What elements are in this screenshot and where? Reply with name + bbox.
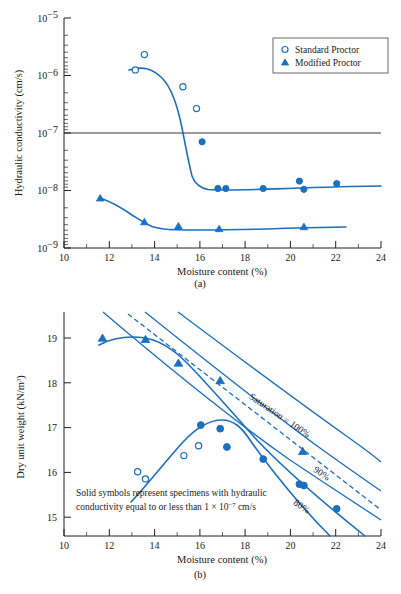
chart-panel-a: 10−5 10−6 10−7 10−8 10−9 (0, 0, 401, 290)
x-ticklabel: 10 (59, 252, 69, 263)
saturation-label-90: 90% (312, 464, 332, 482)
x-ticklabel: 18 (240, 252, 250, 263)
x-ticklabel: 12 (104, 252, 114, 263)
panel-b-svg: 15 16 17 18 19 (0, 290, 401, 594)
y-ticklabel: 19 (47, 333, 57, 344)
x-ticklabel: 24 (376, 252, 386, 263)
x-ticklabel: 18 (240, 540, 250, 551)
data-point-filled (197, 422, 204, 429)
panel-b-label: (b) (194, 569, 207, 581)
y-ticklabels-a: 10−5 10−6 10−7 10−8 10−9 (37, 9, 58, 254)
data-point-open (196, 443, 202, 449)
data-point-triangle (300, 223, 308, 230)
y-axis-title-b: Dry unit weight (kN/m3) (15, 375, 28, 479)
x-ticklabel: 20 (285, 252, 295, 263)
data-point-triangle (216, 377, 225, 384)
legend-label-modified-proctor: Modified Proctor (295, 58, 362, 68)
data-point-triangle (299, 447, 308, 454)
standard-proctor-curve-b (131, 420, 330, 536)
data-point-filled (217, 425, 224, 432)
data-point-open (180, 84, 186, 90)
modified-proctor-curve-a (100, 198, 346, 230)
data-point-open (181, 453, 187, 459)
saturation-label-100: Saturation = 100% (247, 391, 312, 439)
data-point-open (142, 476, 148, 482)
x-ticklabels-a: 10 12 14 16 18 20 22 24 (59, 252, 386, 263)
x-ticks-b (64, 529, 381, 536)
x-ticklabel: 14 (150, 540, 160, 551)
x-ticklabel: 20 (285, 540, 295, 551)
x-ticklabel: 10 (59, 540, 69, 551)
y-ticklabel-1e-7: 10−7 (37, 124, 58, 139)
standard-proctor-curve-a (129, 68, 381, 190)
data-point-open (135, 469, 141, 475)
x-ticklabel: 14 (150, 252, 160, 263)
legend-label-standard-proctor: Standard Proctor (295, 45, 360, 55)
data-point-filled (296, 178, 302, 184)
x-ticks-a (64, 241, 381, 248)
data-point-filled (199, 139, 205, 145)
data-point-filled (224, 444, 231, 451)
y-minor-ticks-a (64, 35, 68, 244)
y-ticklabel: 17 (47, 422, 57, 433)
data-point-triangle (96, 195, 104, 202)
y-ticklabel-1e-5: 10−5 (37, 9, 58, 24)
data-point-triangle (98, 334, 107, 341)
panel-a-svg: 10−5 10−6 10−7 10−8 10−9 (0, 0, 401, 290)
y-ticks-b (64, 338, 71, 517)
annotation-line-2: conductivity equal to or less than 1 × 1… (76, 501, 256, 513)
y-ticklabel-1e-8: 10−8 (37, 182, 58, 197)
data-point-filled (260, 456, 267, 463)
x-ticklabel: 12 (104, 540, 114, 551)
y-axis-title-a: Hydraulic conductivity (cm/s) (13, 69, 25, 196)
standard-proctor-open-points-b (135, 443, 202, 482)
y-ticklabel: 18 (47, 378, 57, 389)
data-point-open (132, 67, 138, 73)
x-axis-title-a: Moisture content (%) (177, 266, 267, 278)
y-ticklabel: 15 (47, 512, 57, 523)
data-point-filled (334, 181, 340, 187)
line-of-optimums-dashed (128, 314, 381, 510)
y-ticklabels-b: 15 16 17 18 19 (47, 333, 57, 523)
x-ticklabels-b: 10 12 14 16 18 20 22 24 (59, 540, 386, 551)
data-point-triangle (174, 359, 183, 366)
data-point-triangle (175, 223, 183, 230)
x-ticklabel: 22 (331, 252, 341, 263)
x-ticklabel: 24 (376, 540, 386, 551)
x-ticklabel: 16 (195, 540, 205, 551)
y-ticklabel: 16 (47, 467, 57, 478)
figure-container: 10−5 10−6 10−7 10−8 10−9 (0, 0, 401, 594)
y-ticklabel-1e-6: 10−6 (37, 67, 58, 82)
data-point-open (193, 106, 199, 112)
standard-proctor-solid-points-a (199, 139, 340, 193)
chart-panel-b: 15 16 17 18 19 (0, 290, 401, 594)
data-point-filled (223, 185, 229, 191)
data-point-filled (301, 186, 307, 192)
x-ticklabel: 22 (331, 540, 341, 551)
panel-a-label: (a) (194, 278, 206, 290)
x-axis-title-b: Moisture content (%) (177, 554, 267, 566)
y-ticklabel-1e-9: 10−9 (37, 239, 58, 254)
data-point-filled (260, 185, 266, 191)
legend-marker-open-circle (282, 47, 288, 53)
data-point-filled (215, 185, 221, 191)
annotation-line-1: Solid symbols represent specimens with h… (76, 488, 267, 498)
data-point-filled (301, 482, 308, 489)
data-point-open (141, 52, 147, 58)
x-ticklabel: 16 (195, 252, 205, 263)
legend-box (273, 38, 388, 73)
data-point-filled (333, 505, 340, 512)
data-point-triangle (215, 225, 223, 232)
legend-a: Standard Proctor Modified Proctor (273, 38, 388, 73)
